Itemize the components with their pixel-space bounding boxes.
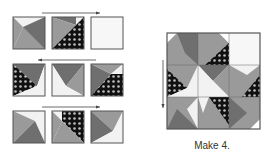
block-r3c1 [13,111,45,143]
block-r3c3 [91,111,123,143]
make-count-label: Make 4. [182,140,242,151]
block-r1c2 [52,17,84,49]
block-r1c3 [91,17,123,49]
block-r2c3 [91,64,123,96]
block-r2c1 [13,64,45,96]
block-r2c2 [52,64,84,96]
quilt-diagram [0,0,272,158]
block-r3c2 [52,111,84,143]
block-r1c1 [13,17,45,49]
assembled-block [167,33,260,129]
